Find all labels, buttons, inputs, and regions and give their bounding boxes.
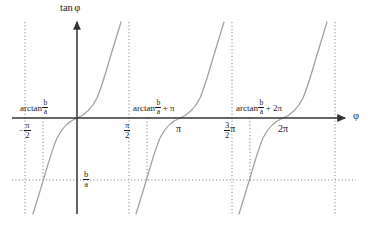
arctan-1-denominator: a (42, 107, 48, 116)
tick-1-numerator: π (24, 121, 30, 130)
arctan-3-fraction: ba (258, 99, 264, 115)
tick-1-denominator: 2 (24, 130, 30, 140)
tick-2-fraction: π2 (124, 121, 130, 140)
arctan-1-numerator: b (42, 99, 48, 107)
x-tick-label-pi: π (176, 124, 181, 134)
plot-canvas (0, 0, 368, 225)
x-tick-label-two-pi: 2π (278, 124, 288, 134)
arctan-2-denominator: a (155, 107, 161, 116)
x-axis-label: φ (353, 111, 359, 122)
x-tick-label-minus-half-pi: −π2 (19, 121, 31, 140)
arctan-3-numerator: b (258, 99, 264, 107)
tick-2-numerator: π (124, 121, 130, 130)
y-axis-label-phi: φ (74, 2, 80, 13)
annotation-arctan-1: arctanba (20, 99, 49, 115)
arctan-2-suffix: + π (163, 103, 175, 113)
arctan-2-numerator: b (155, 99, 161, 107)
arctan-1-prefix: arctan (20, 103, 42, 113)
arctan-2-prefix: arctan (133, 103, 155, 113)
arctan-3-suffix: + 2π (266, 103, 282, 113)
b-over-a-denominator: a (83, 179, 89, 189)
arctan-1-fraction: ba (42, 99, 48, 115)
solution-droplines (43, 118, 250, 180)
b-over-a-numerator: b (83, 170, 89, 179)
x-tick-label-three-half-pi: 32π (224, 121, 235, 140)
value-label-b-over-a: ba (83, 170, 89, 189)
annotation-arctan-3: arctanba+ 2π (236, 99, 282, 115)
y-axis-label: tanφ (60, 3, 80, 14)
x-tick-label-half-pi: π2 (124, 121, 130, 140)
tick-1-minus-wrap: −π2 (19, 121, 31, 140)
tangent-function-plot: tanφ φ arctanba arctanba+ π arctanba+ 2π… (0, 0, 368, 225)
tick-2-denominator: 2 (124, 130, 130, 140)
b-over-a-fraction: ba (83, 170, 89, 189)
annotation-arctan-2: arctanba+ π (133, 99, 175, 115)
tick-1-fraction: π2 (24, 121, 30, 140)
arctan-3-denominator: a (258, 107, 264, 116)
y-axis-label-tan: tan (60, 2, 73, 13)
arctan-2-fraction: ba (155, 99, 161, 115)
tick-4-suffix: π (230, 123, 235, 134)
arctan-3-prefix: arctan (236, 103, 258, 113)
